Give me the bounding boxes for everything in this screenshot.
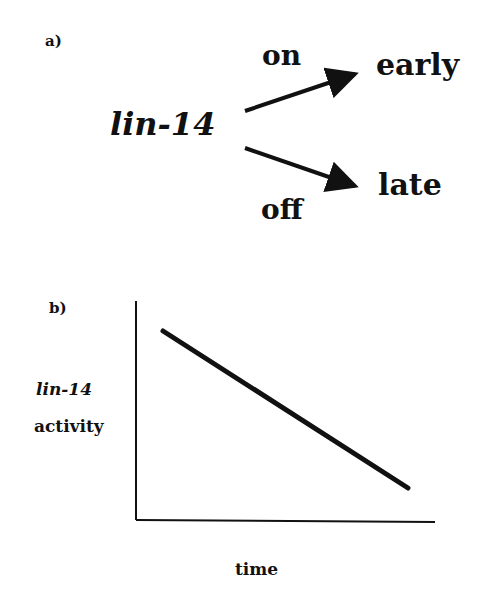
lin14-gene-label: lin-14 bbox=[110, 108, 215, 140]
arrow-off bbox=[245, 148, 355, 186]
early-label: early bbox=[376, 50, 459, 80]
arrow-on bbox=[245, 74, 355, 111]
y-axis-activity-label: activity bbox=[34, 418, 104, 435]
late-label: late bbox=[378, 170, 442, 200]
diagram-graphics bbox=[0, 0, 489, 605]
panel-b-label: b) bbox=[49, 301, 67, 316]
x-axis-label: time bbox=[235, 561, 278, 578]
off-label: off bbox=[261, 196, 303, 224]
x-axis bbox=[136, 520, 435, 522]
y-axis-gene-label: lin-14 bbox=[36, 381, 92, 398]
activity-line bbox=[163, 331, 408, 488]
on-label: on bbox=[262, 42, 301, 70]
panel-a-label: a) bbox=[45, 34, 62, 49]
